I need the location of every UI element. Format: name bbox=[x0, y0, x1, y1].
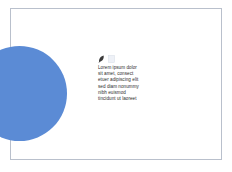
body-text-line: tincidunt ut laoreet bbox=[98, 96, 150, 102]
quote-icon bbox=[108, 55, 115, 63]
blue-circle-shape[interactable] bbox=[0, 46, 67, 141]
slide-frame: Lorem ipsum dolor sit amet, consect etue… bbox=[10, 8, 222, 160]
leaf-icon bbox=[98, 55, 105, 63]
slide-canvas: Lorem ipsum dolor sit amet, consect etue… bbox=[0, 0, 232, 172]
text-block[interactable]: Lorem ipsum dolor sit amet, consect etue… bbox=[98, 55, 150, 102]
decoration-row bbox=[98, 55, 150, 64]
